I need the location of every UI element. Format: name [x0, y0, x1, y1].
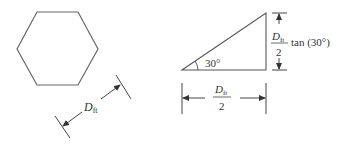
height-dimension: Dft 2 tan (30°) — [271, 13, 330, 70]
diagram-canvas: Dft 30° Dft 2 tan (30°) Dft 2 — [0, 0, 343, 146]
hexagon-diameter-label: Dft — [83, 100, 98, 115]
svg-text:2: 2 — [219, 100, 225, 112]
angle-label: 30° — [205, 57, 220, 69]
svg-text:Dft: Dft — [214, 83, 227, 97]
tan-label: tan (30°) — [291, 36, 330, 49]
base-dimension: Dft 2 — [182, 83, 266, 114]
angle-arc — [195, 61, 198, 70]
hexagon — [17, 12, 98, 85]
svg-text:2: 2 — [276, 46, 282, 58]
right-triangle — [182, 13, 266, 70]
svg-text:Dft: Dft — [271, 30, 284, 44]
